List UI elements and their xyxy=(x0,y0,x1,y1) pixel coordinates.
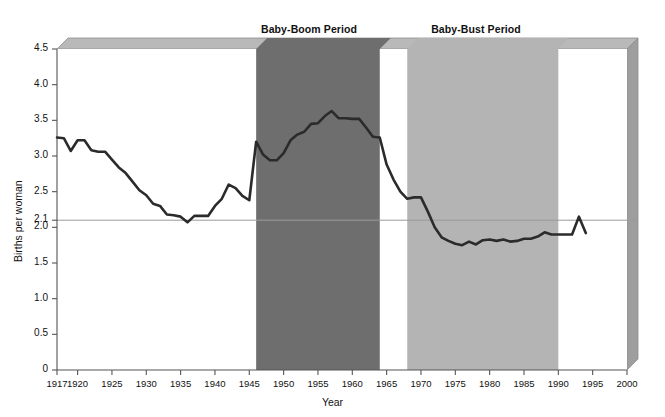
plot-area xyxy=(0,0,665,417)
period-band-baby-boom xyxy=(256,49,380,370)
y-tick-label: 4.5 xyxy=(0,42,48,53)
y-tick-label: 2.5 xyxy=(0,185,48,196)
y-tick-label: 1.0 xyxy=(0,292,48,303)
period-band-baby-bust xyxy=(407,49,558,370)
period-band-bevel-baby-boom xyxy=(256,38,391,49)
y-tick-label: 2.1 xyxy=(0,213,48,224)
plot-right-bevel xyxy=(627,38,638,370)
y-tick-label: 0.5 xyxy=(0,327,48,338)
x-tick-label: 2000 xyxy=(607,378,647,389)
y-tick-label: 0 xyxy=(0,363,48,374)
period-band-bevel-baby-bust xyxy=(407,38,569,49)
y-tick-label: 1.5 xyxy=(0,256,48,267)
y-tick-label: 4.0 xyxy=(0,78,48,89)
y-tick-label: 3.0 xyxy=(0,149,48,160)
chart-figure: Baby-Boom Period (1946–1964) Baby-Bust P… xyxy=(0,0,665,417)
y-tick-label: 3.5 xyxy=(0,113,48,124)
